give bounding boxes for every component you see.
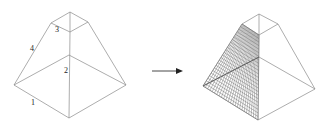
edge-lateral-right bbox=[88, 22, 126, 85]
edge-base-front-right bbox=[258, 89, 315, 120]
edge-base-front-right bbox=[69, 85, 126, 118]
edge-lateral-front bbox=[69, 32, 70, 118]
edge-lateral-left bbox=[14, 23, 51, 85]
edge-top-back-left bbox=[51, 12, 70, 23]
transform-arrow-icon bbox=[152, 68, 183, 74]
edge-base-back-right bbox=[69, 55, 126, 85]
edge-top-front-left bbox=[51, 23, 70, 32]
edge-top-back-right bbox=[259, 14, 278, 24]
diagram-canvas: 1 2 3 4 bbox=[0, 0, 328, 128]
edge-lateral-right bbox=[278, 24, 315, 89]
edge-top-front-right bbox=[259, 24, 278, 35]
edge-top-back-right bbox=[70, 12, 88, 22]
edge-top-front-right bbox=[70, 22, 88, 32]
frustum-meshed-face bbox=[203, 14, 315, 120]
edge-base-back-left bbox=[14, 55, 69, 85]
edge-label-1: 1 bbox=[31, 98, 35, 107]
arrow-head-icon bbox=[176, 68, 183, 74]
edge-label-3: 3 bbox=[55, 25, 59, 34]
edge-base-front-left bbox=[14, 85, 69, 118]
edge-label-4: 4 bbox=[30, 44, 34, 53]
edge-label-2: 2 bbox=[64, 66, 68, 75]
edge-top-back-left bbox=[242, 14, 259, 24]
edge-base-back-right bbox=[259, 57, 315, 89]
